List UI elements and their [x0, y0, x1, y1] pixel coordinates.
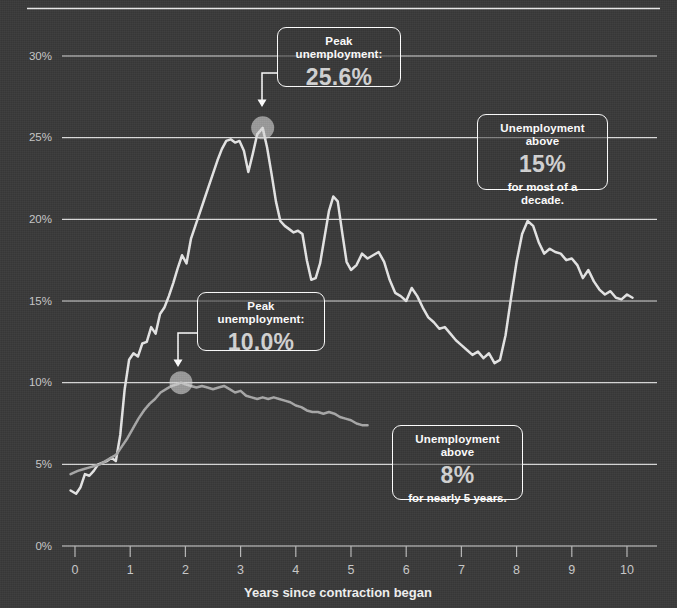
y-axis-tick-label: 25% — [29, 131, 52, 143]
arrow-peak-recession-line — [178, 333, 197, 360]
x-axis-tick-label: 1 — [127, 563, 134, 577]
x-axis-tick-label: 3 — [237, 563, 244, 577]
x-axis-tick-label: 2 — [182, 563, 189, 577]
y-axis-labels-group: 0%5%10%15%20%25%30% — [29, 50, 52, 552]
callout-peak-depression-label: Peak unemployment: — [288, 35, 390, 61]
callout-above-8: Unemployment above 8% for nearly 5 years… — [392, 425, 523, 500]
callout-above-8-sublabel: for nearly 5 years. — [403, 492, 512, 505]
callout-above-8-value: 8% — [403, 462, 512, 488]
y-axis-tick-label: 5% — [35, 458, 52, 470]
y-axis-tick-label: 10% — [29, 376, 52, 388]
x-axis-tick-label: 10 — [620, 563, 634, 577]
x-axis-tick-label: 8 — [513, 563, 520, 577]
y-axis-tick-label: 30% — [29, 50, 52, 62]
arrow-peak-depression-line — [262, 73, 277, 100]
callout-above-15: Unemployment above 15% for most of a dec… — [477, 114, 608, 190]
y-axis-tick-label: 20% — [29, 213, 52, 225]
peak-marker-great-depression — [251, 116, 274, 139]
callout-above-15-sublabel: for most of a decade. — [488, 181, 597, 207]
x-axis-tick-label: 5 — [348, 563, 355, 577]
callout-above-15-value: 15% — [488, 151, 597, 177]
callout-peak-recession-label: Peak unemployment: — [208, 300, 314, 326]
y-axis-tick-label: 15% — [29, 295, 52, 307]
callout-peak-recession-value: 10.0% — [208, 329, 314, 355]
x-axis-labels-group: 012345678910 — [72, 563, 634, 577]
x-axis-tick-label: 0 — [72, 563, 79, 577]
arrow-peak-depression-head — [258, 100, 267, 108]
x-axis-tick-label: 6 — [403, 563, 410, 577]
callout-above-8-label: Unemployment above — [403, 433, 512, 459]
callout-peak-depression: Peak unemployment: 25.6% — [277, 27, 401, 87]
chart-plot-area: 0%5%10%15%20%25%30% 012345678910 Years s… — [0, 0, 677, 608]
unemployment-chart: 0%5%10%15%20%25%30% 012345678910 Years s… — [0, 0, 677, 608]
peak-marker-great-recession — [169, 371, 192, 394]
arrow-peak-recession-head — [174, 360, 183, 368]
x-axis-title: Years since contraction began — [244, 585, 432, 600]
x-axis-tick-label: 9 — [568, 563, 575, 577]
x-axis-tick-label: 4 — [292, 563, 299, 577]
callout-peak-depression-value: 25.6% — [288, 64, 390, 90]
callout-above-15-label: Unemployment above — [488, 122, 597, 148]
x-axis-tick-label: 7 — [458, 563, 465, 577]
callout-peak-recession: Peak unemployment: 10.0% — [197, 292, 325, 351]
y-axis-tick-label: 0% — [35, 540, 52, 552]
x-ticks-group — [75, 546, 627, 557]
